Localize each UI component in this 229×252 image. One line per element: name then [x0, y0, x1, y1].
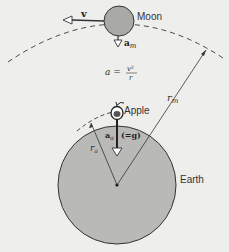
velocity-label: v	[80, 8, 88, 19]
formula-lhs: a =	[105, 67, 121, 77]
moon-accel-label: am	[124, 38, 137, 50]
moon-circle	[104, 6, 134, 36]
formula-denominator: r	[129, 74, 133, 82]
r-moon-arrowhead	[201, 50, 206, 56]
apple-label: Apple	[124, 105, 150, 116]
apple-icon	[111, 102, 124, 120]
earth-moon-apple-diagram: v Moon am a = v² r Apple rm aa (=g) ra E…	[0, 0, 229, 252]
velocity-arrow-line	[72, 20, 104, 21]
moon-label: Moon	[137, 11, 162, 22]
apple-accel-eq-label: (=g)	[121, 130, 141, 140]
earth-label: Earth	[180, 174, 204, 185]
formula-numerator: v²	[127, 65, 134, 73]
moon-accel-arrowhead-icon	[114, 40, 122, 47]
velocity-arrowhead-icon	[63, 16, 72, 24]
